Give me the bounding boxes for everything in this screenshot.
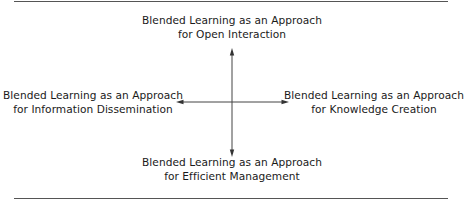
arrow-left-icon xyxy=(176,100,184,104)
axes-cross xyxy=(0,0,464,205)
arrow-up-icon xyxy=(230,48,234,56)
arrow-down-icon xyxy=(230,150,234,158)
bottom-rule xyxy=(14,198,448,199)
arrow-right-icon xyxy=(282,100,290,104)
